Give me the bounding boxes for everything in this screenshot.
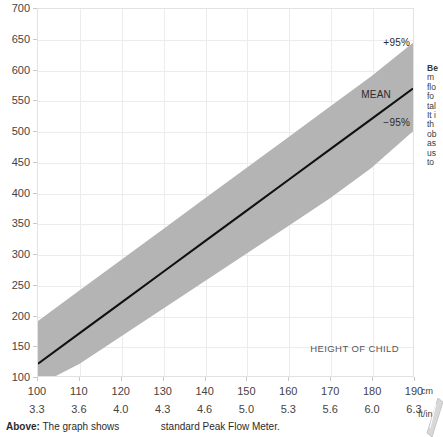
x-axis-tick-mark xyxy=(121,377,122,381)
y-axis-tick-label: 700 xyxy=(0,2,30,14)
x-axis-tick-group: 1806.0 xyxy=(363,385,381,415)
figure-caption: Above: The graph shows standard Peak Flo… xyxy=(6,421,280,432)
x-axis-tick-label-ftin: 6.0 xyxy=(363,403,381,415)
y-axis-tick-label: 550 xyxy=(0,94,30,106)
x-axis-tick-label-cm: 140 xyxy=(195,385,213,397)
confidence-band-95 xyxy=(38,43,413,376)
chart-plot-area: +95% MEAN −95% HEIGHT OF CHILD xyxy=(37,8,414,377)
y-axis-tick-label: 600 xyxy=(0,64,30,76)
x-axis-tick-mark xyxy=(330,377,331,381)
x-axis-tick-mark xyxy=(163,377,164,381)
y-axis-tick-label: 500 xyxy=(0,125,30,137)
x-axis-tick-mark xyxy=(288,377,289,381)
x-axis-tick-mark xyxy=(414,377,415,381)
x-axis-tick-label-cm: 160 xyxy=(279,385,297,397)
x-axis-tick-label-cm: 130 xyxy=(154,385,172,397)
side-text-line: to xyxy=(427,158,443,167)
x-axis-tick-mark xyxy=(37,377,38,381)
x-axis-tick-group: 1204.0 xyxy=(112,385,130,415)
x-axis-tick-label-ftin: 4.3 xyxy=(154,403,172,415)
caption-text-left: The graph shows xyxy=(43,421,120,432)
x-axis-tick-mark xyxy=(372,377,373,381)
x-axis-tick-group: 1003.3 xyxy=(28,385,46,415)
x-axis-tick-label-ftin: 4.0 xyxy=(112,403,130,415)
x-axis-tick-label-ftin: 3.6 xyxy=(70,403,88,415)
meter-shape xyxy=(424,398,443,437)
y-axis-tick-label: 200 xyxy=(0,310,30,322)
peak-flow-meter-illustration xyxy=(424,398,443,437)
x-axis-tick-group: 1705.6 xyxy=(321,385,339,415)
y-axis-tick-label: 150 xyxy=(0,340,30,352)
band-upper-label: +95% xyxy=(383,37,410,48)
x-axis-tick-group: 1103.6 xyxy=(70,385,88,415)
x-axis-tick-mark xyxy=(79,377,80,381)
x-axis-tick-label-ftin: 5.3 xyxy=(279,403,297,415)
x-axis: 1003.31103.61204.01304.31404.61505.01605… xyxy=(0,377,443,422)
side-text-panel: BemflofotalIt ithobasusto xyxy=(427,64,443,167)
y-axis-tick-label: 250 xyxy=(0,279,30,291)
x-axis-tick-group: 1605.3 xyxy=(279,385,297,415)
x-axis-tick-label-cm: 110 xyxy=(70,385,88,397)
x-axis-tick-mark xyxy=(205,377,206,381)
band-lower-label: −95% xyxy=(383,117,410,128)
y-axis-tick-label: 450 xyxy=(0,156,30,168)
x-axis-tick-mark xyxy=(246,377,247,381)
y-axis-tick-label: 350 xyxy=(0,217,30,229)
y-axis-tick-label: 650 xyxy=(0,33,30,45)
x-axis-tick-label-ftin: 5.6 xyxy=(321,403,339,415)
y-axis-tick-label: 400 xyxy=(0,187,30,199)
x-axis-tick-label-cm: 100 xyxy=(28,385,46,397)
caption-lead: Above: xyxy=(6,421,40,432)
x-axis-tick-group: 1304.3 xyxy=(154,385,172,415)
chart-canvas xyxy=(38,9,413,376)
mean-line xyxy=(38,89,413,364)
x-axis-title: HEIGHT OF CHILD xyxy=(310,343,399,354)
x-axis-tick-group: 1505.0 xyxy=(237,385,255,415)
x-axis-tick-label-cm: 150 xyxy=(237,385,255,397)
x-axis-tick-label-cm: 120 xyxy=(112,385,130,397)
x-axis-tick-label-cm: 170 xyxy=(321,385,339,397)
x-axis-tick-label-ftin: 5.0 xyxy=(237,403,255,415)
y-axis-tick-label: 300 xyxy=(0,248,30,260)
x-axis-tick-group: 1404.6 xyxy=(195,385,213,415)
caption-text-right: standard Peak Flow Meter. xyxy=(161,421,280,432)
y-axis: 700650600550500450400350300250200150100 xyxy=(0,0,37,437)
x-axis-tick-label-ftin: 4.6 xyxy=(195,403,213,415)
x-axis-unit-cm: cm xyxy=(421,386,433,396)
x-axis-tick-label-ftin: 3.3 xyxy=(28,403,46,415)
x-axis-tick-label-cm: 180 xyxy=(363,385,381,397)
mean-label: MEAN xyxy=(361,89,391,100)
